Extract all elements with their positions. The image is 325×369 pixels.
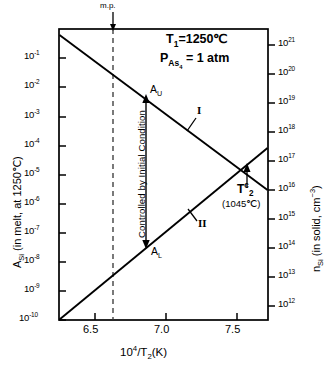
melting-point-label: m.p. <box>100 2 116 10</box>
y-left-tick-label-3: 10-4 <box>24 139 40 149</box>
y-left-tick-label-5: 10-6 <box>24 197 40 207</box>
x-axis-title-base: 10 <box>120 346 133 358</box>
y-right-tick-label-2: 1019 <box>278 96 295 106</box>
y-right-tick-exp-5: 16 <box>288 181 295 188</box>
y-left-tick-exp-5: -6 <box>34 195 39 202</box>
param-T1-sub: 1 <box>174 39 179 49</box>
y-right-tick-label-7: 1014 <box>278 241 295 251</box>
curve-label-I: I <box>197 105 201 117</box>
y-left-tick-label-8: 10-9 <box>24 284 40 294</box>
point-label-AL: AL <box>151 246 162 257</box>
crossing-point-label: Tc2 <box>237 183 253 196</box>
y-left-tick-label-2: 10-3 <box>24 110 40 120</box>
point-label-AL-base: A <box>151 245 158 257</box>
y-right-tick-exp-0: 21 <box>288 36 295 43</box>
y-left-tick-label-4: 10-5 <box>24 168 40 178</box>
y-axis-left-title: ASi (in melt, at 1250℃) <box>12 156 24 268</box>
x-tick-label-1: 7.0 <box>154 324 169 336</box>
y-right-tick-label-0: 1021 <box>278 38 295 48</box>
y-axis-right-ticks <box>268 45 275 306</box>
y-left-tick-label-7: 10-8 <box>24 255 40 265</box>
y-right-tick-exp-4: 17 <box>288 152 295 159</box>
param-PAs4: PAs4 = 1 atm <box>160 52 229 66</box>
y-left-tick-label-9: 10-10 <box>19 313 38 323</box>
curve-II <box>60 148 268 320</box>
point-label-AL-sub: L <box>158 252 162 260</box>
y-left-tick-exp-4: -5 <box>34 166 39 173</box>
y-right-tick-label-5: 1016 <box>278 183 295 193</box>
curve-label-II: II <box>198 218 207 230</box>
param-PAs4-sub: As4 <box>168 58 182 68</box>
y-right-tick-label-6: 1015 <box>278 212 295 222</box>
point-label-AU-sub: U <box>157 90 162 98</box>
y-left-tick-exp-9: -10 <box>29 311 38 318</box>
y-left-tick-exp-7: -8 <box>34 253 39 260</box>
point-label-AU: AU <box>150 84 162 95</box>
param-PAs4-sub2: 4 <box>179 63 182 69</box>
y-left-tick-exp-6: -7 <box>34 224 39 231</box>
x-axis-title-tail: (K) <box>152 346 167 358</box>
y-left-tick-label-1: 10-2 <box>24 80 40 90</box>
crossing-point-sublabel: (1045℃) <box>222 199 260 209</box>
point-label-AU-base: A <box>150 83 157 95</box>
y-right-tick-exp-6: 15 <box>288 210 295 217</box>
x-axis-ticks <box>95 313 237 320</box>
param-T1: T1=1250℃ <box>166 33 228 46</box>
y-left-tick-label-6: 10-7 <box>24 226 40 236</box>
y-left-tick-exp-3: -4 <box>34 137 39 144</box>
y-right-tick-label-1: 1020 <box>278 67 295 77</box>
y-left-tick-exp-1: -2 <box>34 78 39 85</box>
y-axis-left-ticks <box>59 58 66 320</box>
x-axis-title-mid: /T <box>137 346 147 358</box>
y-right-tick-exp-1: 20 <box>288 65 295 72</box>
y-left-tick-exp-8: -9 <box>34 282 39 289</box>
x-tick-label-0: 6.5 <box>83 324 98 336</box>
y-right-tick-label-8: 1013 <box>278 270 295 280</box>
y-right-tick-exp-7: 14 <box>288 239 295 246</box>
y-axis-left-title-sub: Si <box>17 254 26 261</box>
y-right-tick-exp-3: 18 <box>288 123 295 130</box>
y-left-tick-exp-2: -3 <box>34 108 39 115</box>
y-left-tick-label-0: 10-1 <box>24 51 40 61</box>
y-right-tick-exp-9: 12 <box>288 297 295 304</box>
y-axis-right-title-sub: Si <box>316 259 325 266</box>
y-right-tick-label-4: 1017 <box>278 154 295 164</box>
y-right-tick-exp-8: 13 <box>288 268 295 275</box>
x-tick-label-2: 7.5 <box>225 324 240 336</box>
x-axis-title: 104/T2(K) <box>120 346 167 358</box>
initial-condition-note: Controlled by Initial Condition <box>137 110 147 238</box>
y-axis-right-title: nSi (in solid, cm−3) <box>311 185 323 272</box>
y-left-tick-exp-0: -1 <box>34 49 39 56</box>
y-axis-right-title-exp: −3 <box>308 189 317 198</box>
curve-I-leader <box>187 118 196 131</box>
y-right-tick-exp-2: 19 <box>288 94 295 101</box>
y-right-tick-label-3: 1018 <box>278 125 295 135</box>
y-right-tick-label-9: 1012 <box>278 299 295 309</box>
